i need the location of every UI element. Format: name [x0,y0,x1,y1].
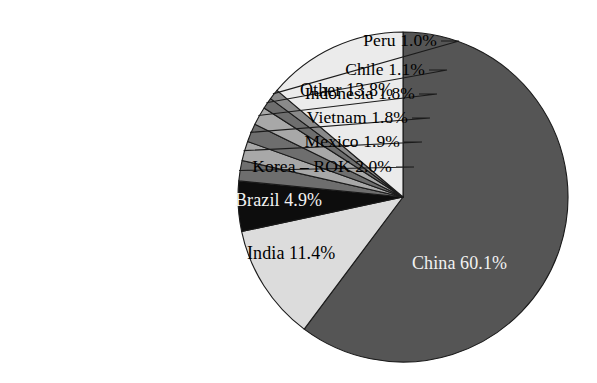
pie-label-chile: Chile 1.1% [345,59,425,80]
pie-label-korea-rok: Korea – ROK 2.0% [252,156,392,177]
pie-label-other: Other 13.8% [300,80,393,101]
pie-label-brazil: Brazil 4.9% [235,190,322,211]
pie-label-vietnam: Vietnam 1.8% [307,107,408,128]
pie-label-india: India 11.4% [247,243,335,264]
pie-label-mexico: Mexico 1.9% [305,131,400,152]
pie-label-china: China 60.1% [412,253,507,274]
pie-label-peru: Peru 1.0% [363,30,437,51]
pie-chart: China 60.1%India 11.4%Brazil 4.9%Korea –… [0,0,597,383]
